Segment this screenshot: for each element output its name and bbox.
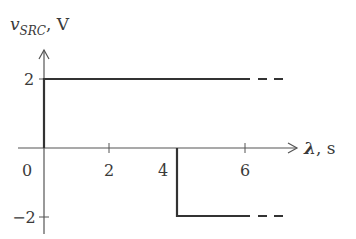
x-tick-label-4: 4 [158, 161, 168, 180]
x-tick-label-6: 6 [240, 161, 250, 180]
y-axis-label: vSRC, V [10, 14, 70, 38]
x-axis-label: λ, s [303, 138, 335, 158]
signal-step-line-negative [177, 148, 250, 216]
x-tick-label-2: 2 [104, 161, 114, 180]
chart: 0 2 4 6 2 −2 vSRC, V λ, s [0, 0, 356, 239]
y-tick-label-2: 2 [24, 70, 34, 89]
y-tick-label-neg2: −2 [12, 208, 36, 227]
signal-step-line [44, 79, 250, 148]
x-tick-label-0: 0 [22, 161, 32, 180]
